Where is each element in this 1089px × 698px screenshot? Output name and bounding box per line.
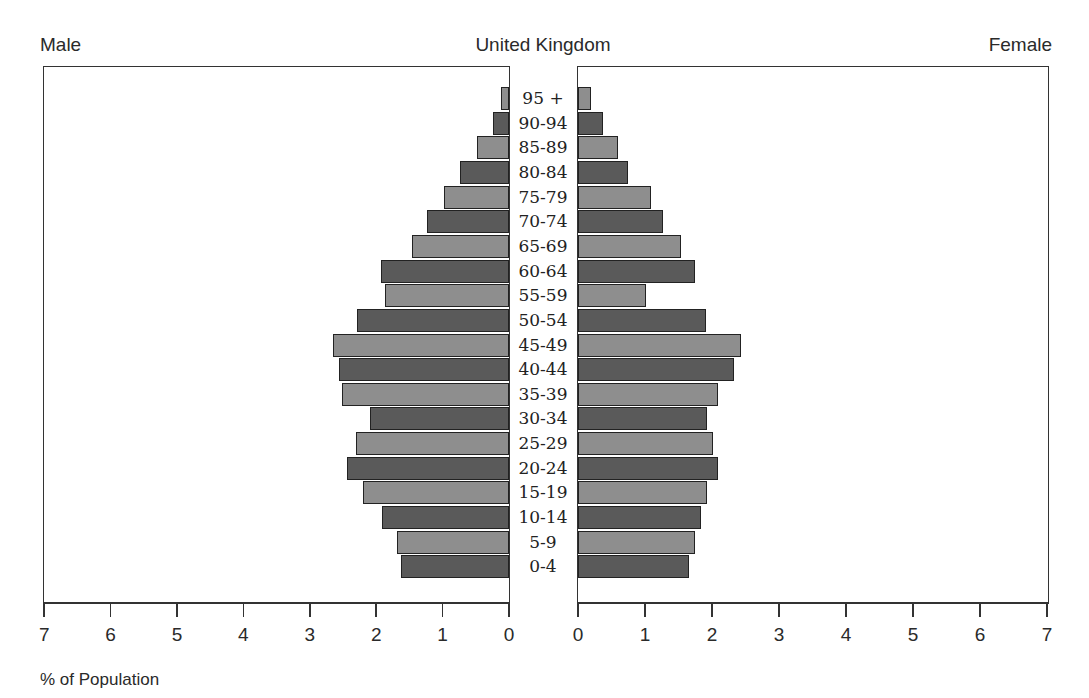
male-bar-60-64 <box>381 260 509 283</box>
age-group-label: 35-39 <box>503 383 583 406</box>
female-bar-0-4 <box>578 555 689 578</box>
female-bar-85-89 <box>578 136 618 159</box>
female-tick <box>778 603 780 617</box>
female-tick <box>1046 603 1048 617</box>
age-group-label: 50-54 <box>503 309 583 332</box>
age-group-label: 60-64 <box>503 260 583 283</box>
male-bar-65-69 <box>412 235 509 258</box>
male-bar-10-14 <box>382 506 509 529</box>
male-bar-25-29 <box>356 432 509 455</box>
male-tick <box>442 603 444 617</box>
female-tick-label: 7 <box>1037 624 1057 646</box>
male-tick-label: 1 <box>433 624 453 646</box>
female-tick-label: 6 <box>970 624 990 646</box>
female-bar-65-69 <box>578 235 681 258</box>
male-bar-55-59 <box>385 284 509 307</box>
female-tick-label: 3 <box>769 624 789 646</box>
age-group-label: 70-74 <box>503 210 583 233</box>
female-tick <box>577 603 579 617</box>
male-tick-label: 5 <box>167 624 187 646</box>
age-group-label: 20-24 <box>503 457 583 480</box>
male-tick-label: 0 <box>499 624 519 646</box>
age-group-label: 55-59 <box>503 284 583 307</box>
male-tick-label: 3 <box>300 624 320 646</box>
female-tick <box>845 603 847 617</box>
female-bar-75-79 <box>578 186 651 209</box>
male-tick-label: 2 <box>366 624 386 646</box>
male-bar-0-4 <box>401 555 509 578</box>
female-tick <box>644 603 646 617</box>
age-group-label: 0-4 <box>503 555 583 578</box>
female-bar-40-44 <box>578 358 734 381</box>
age-group-label: 95 + <box>503 87 583 110</box>
female-bar-35-39 <box>578 383 718 406</box>
male-x-axis <box>43 602 510 604</box>
female-tick <box>711 603 713 617</box>
male-bar-70-74 <box>427 210 509 233</box>
male-bar-50-54 <box>357 309 509 332</box>
age-group-label: 30-34 <box>503 407 583 430</box>
male-bar-40-44 <box>339 358 509 381</box>
female-bar-50-54 <box>578 309 706 332</box>
male-bar-30-34 <box>370 407 509 430</box>
age-group-label: 25-29 <box>503 432 583 455</box>
chart-title: United Kingdom <box>443 34 643 56</box>
male-bar-80-84 <box>460 161 509 184</box>
age-group-label: 15-19 <box>503 481 583 504</box>
male-label: Male <box>40 34 81 56</box>
age-group-label: 85-89 <box>503 136 583 159</box>
male-bar-20-24 <box>347 457 509 480</box>
age-group-label: 10-14 <box>503 506 583 529</box>
male-tick <box>43 603 45 617</box>
age-group-label: 65-69 <box>503 235 583 258</box>
female-tick <box>979 603 981 617</box>
female-bar-15-19 <box>578 481 707 504</box>
female-bar-45-49 <box>578 334 741 357</box>
age-group-label: 75-79 <box>503 186 583 209</box>
male-bar-15-19 <box>363 481 509 504</box>
age-group-label: 80-84 <box>503 161 583 184</box>
female-bar-80-84 <box>578 161 628 184</box>
female-tick-label: 5 <box>903 624 923 646</box>
male-tick <box>309 603 311 617</box>
female-tick <box>912 603 914 617</box>
male-tick-label: 6 <box>101 624 121 646</box>
female-bar-10-14 <box>578 506 701 529</box>
male-bar-75-79 <box>444 186 509 209</box>
female-bar-25-29 <box>578 432 713 455</box>
female-bar-55-59 <box>578 284 646 307</box>
male-tick <box>508 603 510 617</box>
age-group-label: 5-9 <box>503 531 583 554</box>
female-label: Female <box>989 34 1052 56</box>
female-tick-label: 1 <box>635 624 655 646</box>
female-bar-70-74 <box>578 210 663 233</box>
female-x-axis <box>577 602 1049 604</box>
female-tick-label: 4 <box>836 624 856 646</box>
x-axis-label: % of Population <box>40 670 159 690</box>
male-tick <box>243 603 245 617</box>
age-group-label: 90-94 <box>503 112 583 135</box>
age-group-label: 45-49 <box>503 334 583 357</box>
male-bar-5-9 <box>397 531 509 554</box>
male-tick <box>176 603 178 617</box>
female-tick-label: 2 <box>702 624 722 646</box>
male-tick <box>375 603 377 617</box>
male-tick-label: 4 <box>233 624 253 646</box>
female-bar-60-64 <box>578 260 695 283</box>
female-bar-20-24 <box>578 457 718 480</box>
female-bar-5-9 <box>578 531 695 554</box>
male-bar-35-39 <box>342 383 509 406</box>
female-bar-30-34 <box>578 407 707 430</box>
male-bar-45-49 <box>333 334 509 357</box>
female-tick-label: 0 <box>568 624 588 646</box>
male-tick-label: 7 <box>34 624 54 646</box>
male-tick <box>110 603 112 617</box>
age-group-label: 40-44 <box>503 358 583 381</box>
